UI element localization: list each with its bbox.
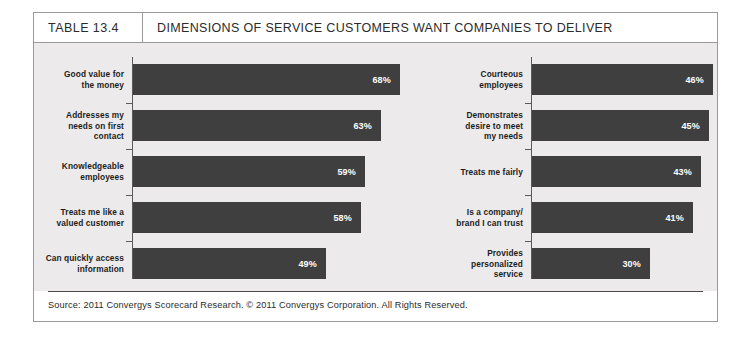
bar-row: Treats me like avalued customer58% [34,195,409,241]
chart-panel: Good value forthe money68%Addresses myne… [34,43,717,291]
chart-column-left: Good value forthe money68%Addresses myne… [34,43,409,291]
category-label: Can quickly accessinformation [34,241,132,287]
table-frame: TABLE 13.4 DIMENSIONS OF SERVICE CUSTOME… [33,12,718,322]
bar-left-3: 59% [133,156,365,187]
category-label-line: Addresses my [66,110,124,121]
category-label-line: Treats me like a [61,207,124,218]
bar-row: Courteousemployees46% [409,57,717,103]
axis-tick [525,195,532,196]
bar-value-label: 30% [622,259,641,269]
bar-value-label: 68% [372,75,391,85]
table-header: TABLE 13.4 DIMENSIONS OF SERVICE CUSTOME… [34,13,717,43]
category-label-line: Is a company/ [467,207,523,218]
category-label-line: Demonstrates [466,110,523,121]
category-label: Treats me like avalued customer [34,195,132,241]
bar-row: Demonstratesdesire to meetmy needs45% [409,103,717,149]
source-area: Source: 2011 Convergys Scorecard Researc… [34,291,717,321]
bar-value-label: 58% [333,213,352,223]
category-label: Courteousemployees [409,57,531,103]
category-label-line: Treats me fairly [461,167,523,178]
axis-tick [126,241,133,242]
source-text: Source: 2011 Convergys Scorecard Researc… [48,300,468,310]
category-label-line: Knowledgeable [62,161,124,172]
category-label-line: my needs [484,131,523,142]
axis-tick [525,241,532,242]
bar-value-label: 59% [337,167,356,177]
category-label-line: the money [82,80,124,91]
category-label: Providespersonalizedservice [409,241,531,287]
axis-tick [126,103,133,104]
category-label-line: contact [94,131,124,142]
category-label-line: brand I can trust [456,218,523,229]
page-title: DIMENSIONS OF SERVICE CUSTOMERS WANT COM… [143,21,613,35]
bar-row: Good value forthe money68% [34,57,409,103]
bar-right-5: 30% [532,248,650,279]
category-label-line: service [494,269,523,280]
category-label: Good value forthe money [34,57,132,103]
bar-right-1: 46% [532,64,713,95]
bar-right-4: 41% [532,202,693,233]
category-label-line: Courteous [481,69,523,80]
bar-left-2: 63% [133,110,381,141]
bar-value-label: 43% [673,167,692,177]
category-label-line: employees [479,80,523,91]
axis-tick [525,149,532,150]
bar-value-label: 41% [665,213,684,223]
bar-left-1: 68% [133,64,400,95]
bar-left-4: 58% [133,202,361,233]
bar-right-3: 43% [532,156,701,187]
bar-row: Providespersonalizedservice30% [409,241,717,287]
category-label-line: personalized [471,259,523,270]
bar-right-2: 45% [532,110,709,141]
category-label: Addresses myneeds on firstcontact [34,103,132,149]
bar-value-label: 49% [298,259,317,269]
category-label-line: Good value for [64,69,124,80]
bar-row: Knowledgeableemployees59% [34,149,409,195]
category-label: Is a company/brand I can trust [409,195,531,241]
category-label-line: valued customer [57,218,124,229]
category-label-line: desire to meet [465,121,523,132]
bar-left-5: 49% [133,248,326,279]
axis-tick [126,149,133,150]
category-label-line: Provides [487,248,523,259]
chart-column-right: Courteousemployees46%Demonstratesdesire … [409,43,717,291]
category-label: Demonstratesdesire to meetmy needs [409,103,531,149]
category-label: Treats me fairly [409,149,531,195]
bar-value-label: 46% [685,75,704,85]
category-label-line: needs on first [68,121,124,132]
category-label-line: Can quickly access [46,253,124,264]
category-label-line: employees [80,172,124,183]
bar-row: Treats me fairly43% [409,149,717,195]
bar-row: Can quickly accessinformation49% [34,241,409,287]
axis-tick [525,103,532,104]
bar-row: Is a company/brand I can trust41% [409,195,717,241]
bar-value-label: 63% [353,121,372,131]
source-divider [48,291,703,292]
category-label-line: information [77,264,124,275]
category-label: Knowledgeableemployees [34,149,132,195]
table-number: TABLE 13.4 [34,21,142,35]
axis-tick [126,195,133,196]
bar-row: Addresses myneeds on firstcontact63% [34,103,409,149]
bar-value-label: 45% [681,121,700,131]
